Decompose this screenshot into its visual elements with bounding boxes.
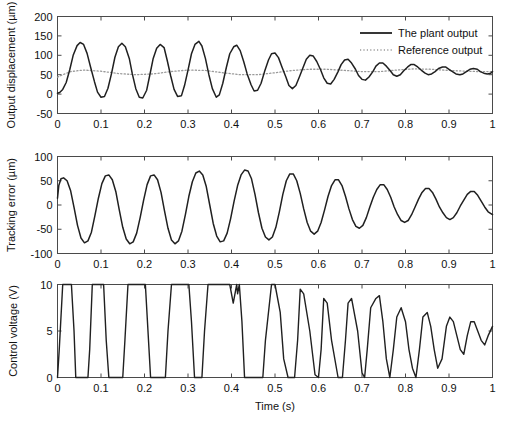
panel-control-voltage: 0510 00.10.20.30.40.50.60.70.80.91 Contr… [7,279,496,413]
svg-text:5: 5 [46,325,52,337]
panel1-x-tick-labels: 00.10.20.30.40.50.60.70.80.91 [54,118,495,130]
reference-output-curve [58,69,493,77]
legend-label-reference-output: Reference output [398,44,482,56]
svg-text:0.4: 0.4 [224,118,239,130]
panel3-y-axis-label: Control voltage (V) [7,285,19,377]
svg-text:0.2: 0.2 [137,258,152,270]
panel3-x-ticks [58,285,493,378]
x-axis-label: Time (s) [255,400,295,412]
svg-text:50: 50 [40,69,52,81]
svg-text:0: 0 [54,382,60,394]
panel2-y-axis-label: Tracking error (µm) [5,158,17,252]
svg-text:0.8: 0.8 [398,258,413,270]
tracking-error-curve [58,170,493,244]
svg-text:0.2: 0.2 [137,382,152,394]
svg-text:0.5: 0.5 [267,118,282,130]
svg-text:10: 10 [40,279,52,291]
svg-text:0.3: 0.3 [180,382,195,394]
svg-text:0.3: 0.3 [180,118,195,130]
svg-text:0.6: 0.6 [311,258,326,270]
svg-text:0.6: 0.6 [311,382,326,394]
svg-text:0.8: 0.8 [398,382,413,394]
svg-text:0.1: 0.1 [93,258,108,270]
svg-text:1: 1 [489,258,495,270]
panel3-y-tick-labels: 0510 [40,279,52,384]
svg-text:1: 1 [489,118,495,130]
svg-text:0.7: 0.7 [354,118,369,130]
panel1-y-tick-labels: -50050100150200 [34,11,52,120]
legend-label-plant-output: The plant output [398,27,478,39]
panel-tracking-error: -100-50050100 00.10.20.30.40.50.60.70.80… [5,151,496,270]
svg-text:0.5: 0.5 [267,258,282,270]
svg-text:100: 100 [34,151,52,163]
svg-text:0.6: 0.6 [311,118,326,130]
svg-text:0.1: 0.1 [93,118,108,130]
svg-text:0: 0 [46,88,52,100]
figure-root: -50050100150200 00.10.20.30.40.50.60.70.… [0,0,512,422]
panel2-frame [58,157,493,254]
svg-text:150: 150 [34,30,52,42]
svg-text:0.7: 0.7 [354,382,369,394]
panel2-y-tick-labels: -100-50050100 [30,151,52,260]
svg-text:0.4: 0.4 [224,382,239,394]
svg-text:-50: -50 [37,108,53,120]
svg-text:0.3: 0.3 [180,258,195,270]
svg-text:-50: -50 [37,223,53,235]
svg-text:0.9: 0.9 [441,258,456,270]
svg-text:0: 0 [54,258,60,270]
svg-text:100: 100 [34,49,52,61]
panel3-x-tick-labels: 00.10.20.30.40.50.60.70.80.91 [54,382,495,394]
panel-output-displacement: -50050100150200 00.10.20.30.40.50.60.70.… [5,2,496,130]
svg-text:0.8: 0.8 [398,118,413,130]
legend: The plant output Reference output [360,27,482,56]
svg-text:0.4: 0.4 [224,258,239,270]
svg-text:50: 50 [40,175,52,187]
panel2-y-ticks [58,157,493,254]
svg-text:0.9: 0.9 [441,382,456,394]
svg-text:0.2: 0.2 [137,118,152,130]
svg-text:0.7: 0.7 [354,258,369,270]
svg-text:0: 0 [46,372,52,384]
svg-text:200: 200 [34,11,52,23]
svg-text:0.5: 0.5 [267,382,282,394]
panel2-x-tick-labels: 00.10.20.30.40.50.60.70.80.91 [54,258,495,270]
panel3-frame [58,285,493,378]
panel1-y-axis-label: Output displacement (µm) [5,2,17,129]
panel2-x-ticks [58,157,493,254]
svg-text:0: 0 [46,199,52,211]
svg-text:0.1: 0.1 [93,382,108,394]
panel3-y-ticks [58,285,493,378]
svg-text:1: 1 [489,382,495,394]
svg-text:-100: -100 [30,248,52,260]
control-voltage-curve [58,285,493,378]
svg-text:0: 0 [54,118,60,130]
svg-text:0.9: 0.9 [441,118,456,130]
